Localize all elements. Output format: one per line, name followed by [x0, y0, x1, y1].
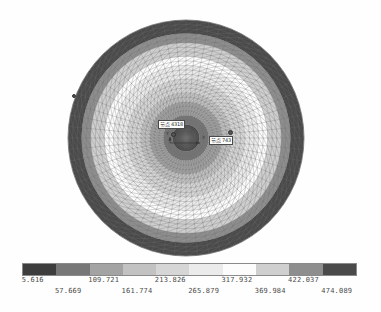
colorbar-tick-5: 265.879: [188, 287, 219, 295]
colorbar-band-9: [323, 264, 356, 275]
node-marker-edge: [72, 94, 76, 98]
colorbar-band-8: [289, 264, 322, 275]
colorbar-tick-0: 5.616: [22, 276, 44, 284]
colorbar-band-5: [189, 264, 222, 275]
colorbar-tick-9: 474.089: [321, 287, 352, 295]
fea-mesh: [0, 0, 381, 258]
colorbar-tick-6: 317.932: [221, 276, 252, 284]
colorbar-tick-4: 213.826: [155, 276, 186, 284]
colorbar-tick-7: 369.984: [255, 287, 286, 295]
colorbar-tick-8: 422.037: [288, 276, 319, 284]
colorbar-band-2: [90, 264, 123, 275]
colorbar-band-1: [56, 264, 89, 275]
colorbar-band-7: [256, 264, 289, 275]
node-marker-min: [228, 130, 233, 135]
axis-x-label: X: [202, 135, 205, 140]
colorbar-band-6: [223, 264, 256, 275]
figure-root: 节点 4318 节点 743 X Y 5.616109.721213.82631…: [0, 0, 381, 312]
colorbar-region: 5.616109.721213.826317.932422.03757.6691…: [0, 258, 381, 312]
colorbar-tick-2: 109.721: [88, 276, 119, 284]
axis-triad: X Y: [166, 132, 208, 142]
node-callout-min: 节点 743: [209, 136, 233, 145]
node-callout-max: 节点 4318: [158, 120, 185, 129]
colorbar-ticks: 5.616109.721213.826317.932422.03757.6691…: [0, 276, 381, 306]
colorbar-band-0: [23, 264, 56, 275]
axis-y-label: Y: [166, 131, 169, 136]
colorbar-band-4: [156, 264, 189, 275]
contour-plot-area: 节点 4318 节点 743 X Y: [0, 0, 381, 258]
colorbar-tick-3: 161.774: [122, 287, 153, 295]
contour-colorbar: [22, 263, 357, 276]
colorbar-band-3: [123, 264, 156, 275]
colorbar-tick-1: 57.669: [55, 287, 82, 295]
